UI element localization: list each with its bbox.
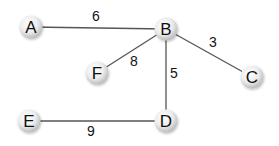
node-b: B [155,18,178,41]
edge-weight-label: 5 [170,65,178,81]
node-d: D [155,110,178,133]
node-label: B [160,20,171,39]
nodes-layer: ABCFDE [18,16,264,133]
graph-diagram: 63859 ABCFDE [0,0,279,146]
node-a: A [20,16,43,39]
edge-weight-label: 3 [209,34,217,50]
node-c: C [241,66,264,89]
node-label: F [92,64,102,83]
edges-layer: 63859 [29,8,252,139]
edge-weight-label: 9 [87,123,95,139]
node-label: D [160,112,172,131]
edge-weight-label: 8 [130,53,138,69]
node-e: E [18,110,41,133]
edge-a-b [31,27,166,29]
node-label: A [25,18,37,37]
edge-weight-label: 6 [92,8,100,24]
node-label: E [23,112,34,131]
node-f: F [86,62,109,85]
node-label: C [246,68,258,87]
